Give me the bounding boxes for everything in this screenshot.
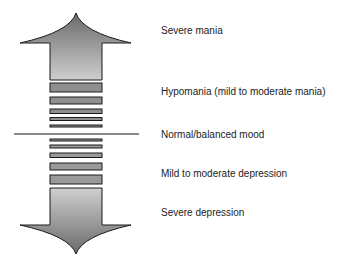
- down-arrow-icon: [20, 188, 131, 254]
- label-mild-depression: Mild to moderate depression: [161, 168, 287, 179]
- up-arrow-icon: [20, 13, 131, 80]
- label-normal-mood: Normal/balanced mood: [161, 129, 264, 140]
- label-severe-mania: Severe mania: [161, 25, 223, 36]
- label-severe-depression: Severe depression: [161, 207, 244, 218]
- label-hypomania: Hypomania (mild to moderate mania): [161, 86, 326, 97]
- lower-mood-bars: [50, 139, 102, 184]
- upper-mood-bars: [50, 83, 102, 127]
